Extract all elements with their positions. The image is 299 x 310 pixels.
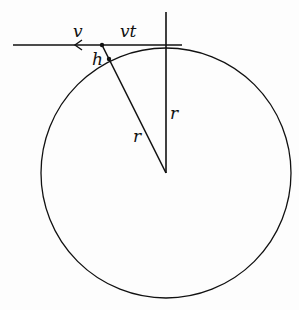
label-radius-vertical: r xyxy=(170,103,179,123)
label-radius-slant: r xyxy=(133,126,142,146)
label-height: h xyxy=(92,49,103,69)
label-distance: vt xyxy=(120,21,137,41)
point-on-circle xyxy=(107,57,111,61)
diagram-canvas: v vt h r r xyxy=(0,0,299,310)
point-on-tangent xyxy=(100,43,104,47)
slant-radius-line xyxy=(102,45,166,173)
label-velocity: v xyxy=(73,21,83,41)
diagram-svg: v vt h r r xyxy=(0,0,299,310)
